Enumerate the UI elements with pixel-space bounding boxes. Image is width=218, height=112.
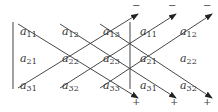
element-a31: a31	[20, 80, 37, 93]
plus-sign-1: +	[132, 97, 140, 107]
element-a12: a12	[62, 26, 79, 39]
element-a21: a21	[20, 53, 37, 66]
minus-sign-1: −	[132, 1, 140, 11]
repeat-element-a12: a12	[180, 26, 197, 39]
element-a23: a23	[103, 53, 120, 66]
repeat-element-a31: a31	[140, 80, 157, 93]
repeat-element-a11: a11	[140, 26, 157, 39]
minus-sign-2: −	[168, 1, 176, 11]
element-a32: a32	[62, 80, 79, 93]
repeat-element-a32: a32	[180, 80, 197, 93]
repeat-element-a22: a22	[180, 53, 197, 66]
element-a33: a33	[103, 80, 120, 93]
repeat-element-a21: a21	[140, 53, 157, 66]
element-a13: a13	[103, 26, 120, 39]
plus-sign-2: +	[170, 97, 178, 107]
element-a22: a22	[62, 53, 79, 66]
minus-sign-3: −	[203, 1, 211, 11]
element-a11: a11	[20, 26, 37, 39]
plus-sign-3: +	[203, 97, 211, 107]
